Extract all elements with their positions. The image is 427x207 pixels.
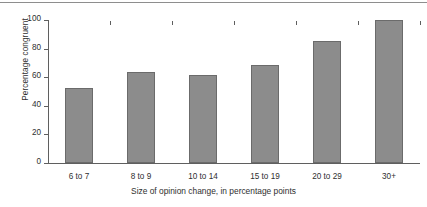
x-tick-boundary-1 bbox=[110, 21, 111, 25]
y-tick-label-0: 0 bbox=[36, 157, 41, 166]
y-tick-20: 20 bbox=[44, 134, 48, 135]
y-tick-100: 100 bbox=[44, 20, 48, 21]
y-tick-label-60: 60 bbox=[32, 71, 41, 80]
y-tick-0: 0 bbox=[44, 163, 48, 164]
y-tick-40: 40 bbox=[44, 106, 48, 107]
y-tick-80: 80 bbox=[44, 49, 48, 50]
x-tick-label-30-plus: 30+ bbox=[358, 172, 420, 181]
x-tick-boundary-3 bbox=[234, 21, 235, 25]
bar-chart-figure: Percentage congruent 0 20 40 60 80 100 bbox=[0, 0, 427, 207]
x-axis-title: Size of opinion change, in percentage po… bbox=[0, 186, 427, 196]
y-tick-label-80: 80 bbox=[32, 43, 41, 52]
plot-area: 0 20 40 60 80 100 6 to 7 8 to bbox=[48, 20, 420, 163]
x-tick-boundary-2 bbox=[172, 21, 173, 25]
bar-20-to-29[interactable] bbox=[313, 41, 341, 163]
bar-8-to-9[interactable] bbox=[127, 72, 155, 163]
y-axis-line bbox=[48, 20, 49, 163]
y-tick-label-100: 100 bbox=[27, 14, 41, 23]
x-tick-label-10-to-14: 10 to 14 bbox=[172, 172, 234, 181]
x-tick-label-8-to-9: 8 to 9 bbox=[110, 172, 172, 181]
top-divider-rule bbox=[0, 2, 427, 3]
y-tick-label-40: 40 bbox=[32, 100, 41, 109]
x-tick-boundary-6 bbox=[420, 21, 421, 25]
x-axis-line bbox=[48, 163, 420, 164]
x-tick-boundary-5 bbox=[358, 21, 359, 25]
y-tick-60: 60 bbox=[44, 77, 48, 78]
y-tick-label-20: 20 bbox=[32, 128, 41, 137]
bar-10-to-14[interactable] bbox=[189, 75, 217, 163]
bar-6-to-7[interactable] bbox=[65, 88, 93, 163]
x-tick-boundary-4 bbox=[296, 21, 297, 25]
x-tick-label-20-to-29: 20 to 29 bbox=[296, 172, 358, 181]
x-tick-label-6-to-7: 6 to 7 bbox=[48, 172, 110, 181]
bar-15-to-19[interactable] bbox=[251, 65, 279, 163]
bar-30-plus[interactable] bbox=[375, 20, 403, 163]
x-tick-label-15-to-19: 15 to 19 bbox=[234, 172, 296, 181]
